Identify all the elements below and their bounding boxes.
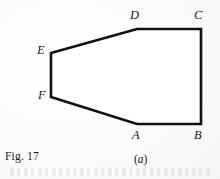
- vertex-label-E: E: [37, 44, 45, 57]
- vertex-label-A: A: [132, 129, 140, 142]
- vertex-label-B: B: [194, 129, 202, 142]
- figure-number-caption: Fig. 17: [5, 151, 39, 163]
- vertex-label-D: D: [130, 9, 139, 22]
- panel-label-caption: (a): [134, 154, 147, 166]
- vertex-label-F: F: [38, 89, 46, 102]
- figure-container: D C E F A B Fig. 17 (a): [0, 0, 220, 179]
- vertex-label-C: C: [194, 9, 202, 22]
- panel-label-close-paren: ): [144, 153, 148, 165]
- hexagon-outline: [51, 29, 201, 124]
